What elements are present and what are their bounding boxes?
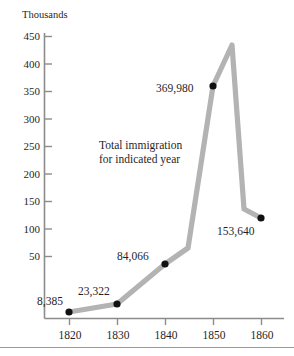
chart-annotation-line2: for indicated year (99, 152, 204, 166)
value-label-1860: 153,640 (217, 226, 254, 238)
ytick-label-450: 450 (10, 31, 40, 42)
xtick-label-1850: 1850 (194, 330, 234, 342)
chart-annotation-line1: Total immigration (99, 138, 204, 152)
value-label-1820: 8,385 (37, 296, 63, 308)
xtick-label-1820: 1820 (50, 330, 90, 342)
ytick-label-350: 350 (10, 86, 40, 97)
ytick-label-250: 250 (10, 141, 40, 152)
xtick-label-1860: 1860 (242, 330, 282, 342)
data-point-1860 (257, 214, 264, 221)
xtick-label-1830: 1830 (98, 330, 138, 342)
data-point-1840 (161, 260, 168, 267)
data-point-1830 (113, 300, 120, 307)
value-label-1830: 23,322 (78, 286, 110, 298)
ytick-label-150: 150 (10, 196, 40, 207)
data-point-1850 (209, 82, 216, 89)
ytick-label-50: 50 (10, 251, 40, 262)
ytick-label-400: 400 (10, 59, 40, 70)
y-axis-ticks (45, 37, 52, 257)
xtick-label-1840: 1840 (146, 330, 186, 342)
value-label-1840: 84,066 (117, 251, 149, 263)
bottom-divider (0, 347, 294, 348)
immigration-line-chart: Thousands 450 400 350 300 250 200 150 10… (0, 0, 294, 356)
data-point-1820 (65, 308, 72, 315)
ytick-label-100: 100 (10, 224, 40, 235)
chart-annotation: Total immigration for indicated year (99, 138, 204, 167)
ytick-label-200: 200 (10, 169, 40, 180)
ytick-label-300: 300 (10, 114, 40, 125)
value-label-1850: 369,980 (156, 83, 193, 95)
y-axis-unit-label: Thousands (22, 10, 68, 21)
